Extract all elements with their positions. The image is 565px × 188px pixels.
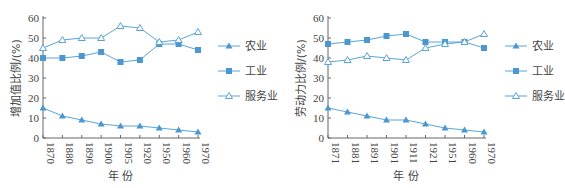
x-tick-label: 1921 (428, 142, 440, 164)
filled-square-marker (364, 37, 370, 43)
x-tick-label: 1920 (142, 142, 154, 165)
legend-label: 工业 (245, 65, 267, 78)
filled-square-marker (118, 59, 124, 65)
y-tick-label: 60 (313, 12, 325, 24)
series-line (43, 26, 198, 48)
legend-label: 农业 (532, 39, 554, 53)
value-added-ratio-chart: 0102030405060187018801890190019051920195… (9, 12, 278, 183)
y-tick-label: 0 (34, 132, 40, 144)
x-axis-label: 年 份 (108, 169, 134, 183)
y-axis-label: 劳动力比例/(%) (294, 39, 308, 117)
filled-square-marker (325, 41, 331, 47)
y-tick-label: 10 (313, 112, 325, 124)
filled-square-marker (195, 47, 201, 53)
x-tick-label: 1900 (103, 142, 115, 165)
x-tick-label: 1960 (181, 142, 193, 165)
y-tick-label: 40 (28, 52, 40, 64)
y-axis-label: 增加值比例/(%) (9, 39, 23, 117)
y-tick-label: 50 (28, 32, 40, 44)
legend-item: 工业 (505, 65, 554, 78)
y-tick-label: 0 (319, 132, 325, 144)
x-tick-label: 1870 (45, 142, 57, 165)
filled-square-marker (345, 39, 351, 45)
hollow-triangle-marker (481, 31, 488, 37)
y-tick-label: 30 (28, 72, 40, 84)
y-tick-label: 30 (313, 72, 325, 84)
y-tick-label: 20 (313, 92, 325, 104)
x-tick-label: 1881 (350, 142, 362, 164)
y-tick-label: 20 (28, 92, 40, 104)
x-tick-label: 1905 (123, 142, 135, 165)
x-axis-label: 年 份 (393, 169, 419, 183)
filled-square-marker (98, 49, 104, 55)
filled-square-marker (59, 55, 65, 61)
legend-label: 服务业 (245, 90, 278, 103)
filled-square-marker (137, 57, 143, 63)
filled-triangle-marker (40, 105, 47, 111)
series-filled-square (40, 41, 201, 65)
filled-square-marker (40, 55, 46, 61)
y-tick-label: 50 (313, 32, 325, 44)
legend-item: 农业 (218, 39, 267, 53)
filled-square-marker (79, 53, 85, 59)
series-filled-triangle (325, 105, 488, 135)
charts-canvas: 0102030405060187018801890190019051920195… (0, 0, 565, 188)
legend-label: 服务业 (532, 90, 565, 103)
filled-square-marker (384, 33, 390, 39)
hollow-triangle-marker (117, 23, 124, 29)
legend-filled-square-icon (226, 68, 232, 74)
labor-force-ratio-chart: 0102030405060187118811891190119111921195… (294, 12, 565, 183)
y-tick-label: 40 (313, 52, 325, 64)
legend-item: 服务业 (505, 90, 565, 103)
y-tick-label: 10 (28, 112, 40, 124)
legend-label: 工业 (532, 65, 554, 78)
filled-square-marker (403, 31, 409, 37)
legend-filled-square-icon (513, 68, 519, 74)
legend-item: 服务业 (218, 90, 278, 103)
legend-item: 农业 (505, 39, 554, 53)
x-tick-label: 1901 (389, 142, 401, 164)
x-tick-label: 1871 (330, 142, 342, 164)
filled-triangle-marker (325, 105, 332, 111)
series-filled-triangle (40, 105, 202, 135)
x-tick-label: 1970 (486, 142, 498, 165)
x-tick-label: 1950 (161, 142, 173, 165)
x-tick-label: 1951 (447, 142, 459, 164)
hollow-triangle-marker (195, 29, 202, 35)
x-tick-label: 1970 (200, 142, 212, 165)
x-tick-label: 1891 (369, 142, 381, 164)
legend-label: 农业 (245, 39, 267, 53)
x-tick-label: 1960 (467, 142, 479, 165)
y-tick-label: 60 (28, 12, 40, 24)
legend-item: 工业 (218, 65, 267, 78)
x-tick-label: 1880 (64, 142, 76, 165)
x-tick-label: 1911 (408, 142, 420, 164)
filled-square-marker (481, 45, 487, 51)
x-tick-label: 1890 (84, 142, 96, 165)
hollow-triangle-marker (364, 53, 371, 59)
